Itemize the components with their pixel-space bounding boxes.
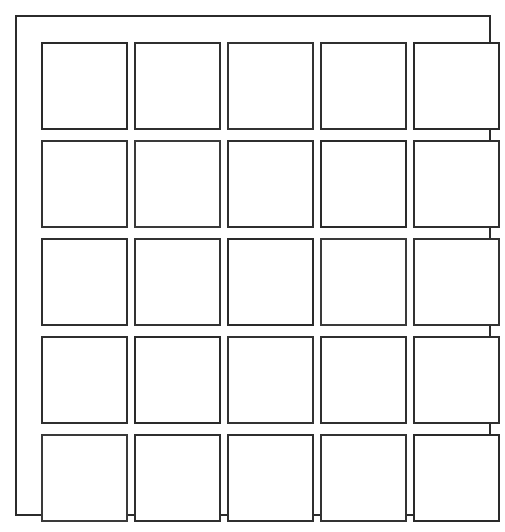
grid-container [41, 42, 499, 523]
grid-cell[interactable] [134, 238, 221, 326]
grid-cell[interactable] [227, 336, 314, 424]
outer-border-frame [15, 15, 491, 516]
grid-cell[interactable] [134, 140, 221, 228]
grid-cell[interactable] [227, 42, 314, 130]
grid-cell[interactable] [134, 336, 221, 424]
grid-cell[interactable] [413, 434, 500, 522]
grid-cell[interactable] [413, 238, 500, 326]
grid-cell[interactable] [41, 336, 128, 424]
grid-cell[interactable] [134, 434, 221, 522]
grid-cell[interactable] [41, 140, 128, 228]
grid-cell[interactable] [41, 238, 128, 326]
grid-cell[interactable] [320, 238, 407, 326]
page-canvas [0, 0, 505, 532]
grid-cell[interactable] [134, 42, 221, 130]
grid-cell[interactable] [413, 42, 500, 130]
grid-cell[interactable] [320, 434, 407, 522]
grid-cell[interactable] [227, 238, 314, 326]
grid-cell[interactable] [320, 42, 407, 130]
grid-cell[interactable] [41, 42, 128, 130]
grid-cell[interactable] [227, 140, 314, 228]
grid-cell[interactable] [320, 336, 407, 424]
grid-cell[interactable] [320, 140, 407, 228]
grid-cell[interactable] [413, 140, 500, 228]
grid-cell[interactable] [227, 434, 314, 522]
grid-cell[interactable] [413, 336, 500, 424]
grid-cell[interactable] [41, 434, 128, 522]
